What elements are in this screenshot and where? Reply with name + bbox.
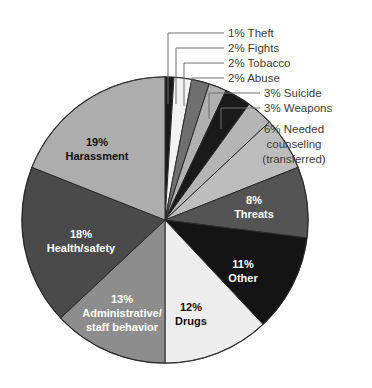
- needed-counseling-line3: (transferred): [262, 153, 325, 165]
- needed-counseling-line1: 6% Needed: [264, 123, 324, 135]
- callout-label-fights: 2% Fights: [228, 42, 279, 54]
- callout-label-tobacco: 2% Tobacco: [228, 57, 290, 69]
- threats-name: Threats: [234, 208, 274, 220]
- threats-pct: 8%: [246, 194, 262, 206]
- pie-chart-svg: 1% Theft 2% Fights 2% Tobacco 2% Abuse 3…: [0, 0, 372, 388]
- harassment-pct: 19%: [86, 136, 108, 148]
- health-pct: 18%: [70, 228, 92, 240]
- health-name: Health/safety: [47, 242, 116, 254]
- other-pct: 11%: [232, 258, 254, 270]
- callout-label-abuse: 2% Abuse: [228, 72, 280, 84]
- other-name: Other: [228, 272, 258, 284]
- harassment-name: Harassment: [66, 150, 129, 162]
- pie-slices-group: [22, 77, 308, 363]
- drugs-name: Drugs: [175, 315, 207, 327]
- drugs-pct: 12%: [180, 301, 202, 313]
- pie-chart-figure: 1% Theft 2% Fights 2% Tobacco 2% Abuse 3…: [0, 0, 372, 388]
- callout-label-suicide: 3% Suicide: [264, 87, 322, 99]
- outside-label-needed-counseling: 6% Needed counseling (transferred): [262, 123, 325, 165]
- admin-pct: 13%: [111, 293, 133, 305]
- admin-line3: staff behavior: [86, 321, 159, 333]
- callout-label-theft: 1% Theft: [228, 27, 275, 39]
- admin-line2: Administrative/: [82, 307, 161, 319]
- needed-counseling-line2: counseling: [267, 138, 322, 150]
- callout-label-weapons: 3% Weapons: [264, 102, 332, 114]
